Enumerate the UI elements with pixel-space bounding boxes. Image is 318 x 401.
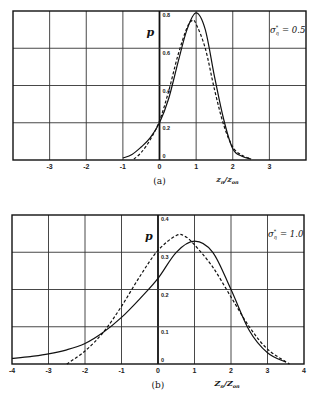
y-tick-label: 0 bbox=[163, 153, 166, 159]
x-tick-label: 1 bbox=[194, 163, 198, 170]
x-tick-label: -3 bbox=[47, 163, 53, 170]
chart-b-curves bbox=[12, 234, 289, 364]
y-axis-label: p bbox=[147, 26, 155, 39]
chart-panel-b: -4-3-2-10123400.10.20.30.4pση* = 1.0Zn/Z… bbox=[0, 200, 318, 401]
x-tick-label: 2 bbox=[229, 367, 233, 374]
x-axis-label: zn/zon bbox=[215, 174, 239, 185]
y-tick-label: 0.6 bbox=[163, 50, 171, 56]
x-axis-label: Zn/Zon bbox=[214, 378, 241, 389]
y-tick-label: 0.2 bbox=[163, 125, 171, 131]
panel-caption: (b) bbox=[152, 380, 165, 390]
x-tick-label: -1 bbox=[120, 163, 126, 170]
x-tick-label: -3 bbox=[45, 367, 51, 374]
series-dashed-curve bbox=[67, 234, 290, 364]
sigma-annotation: ση* = 1.0 bbox=[268, 228, 304, 241]
x-tick-label: -2 bbox=[83, 163, 89, 170]
x-tick-label: -1 bbox=[118, 367, 124, 374]
x-tick-label: -4 bbox=[9, 367, 15, 374]
panel-caption: (a) bbox=[153, 176, 165, 186]
x-tick-label: 3 bbox=[266, 367, 270, 374]
y-tick-label: 0.1 bbox=[161, 329, 169, 335]
x-tick-label: -2 bbox=[82, 367, 88, 374]
chart-panel-a: -3-2-1012300.20.40.60.8pση* = 0.5zn/zon(… bbox=[0, 0, 318, 200]
chart-b-plot: -4-3-2-10123400.10.20.30.4pση* = 1.0Zn/Z… bbox=[0, 200, 318, 401]
chart-a-grid bbox=[13, 11, 306, 160]
series-solid-curve bbox=[12, 241, 286, 362]
y-axis-label: p bbox=[145, 230, 153, 243]
sigma-annotation: ση* = 0.5 bbox=[270, 24, 305, 37]
x-tick-label: 0 bbox=[158, 163, 162, 170]
chart-a-curves bbox=[123, 13, 251, 159]
y-tick-label: 0.4 bbox=[161, 216, 170, 222]
y-tick-label: 0.4 bbox=[163, 88, 172, 94]
y-tick-label: 0.2 bbox=[161, 292, 169, 298]
y-tick-label: 0.3 bbox=[161, 254, 169, 260]
y-tick-label: 0 bbox=[161, 357, 164, 363]
x-tick-label: 3 bbox=[267, 163, 271, 170]
x-tick-label: 0 bbox=[156, 367, 160, 374]
x-tick-label: 1 bbox=[193, 367, 197, 374]
series-dashed-curve bbox=[134, 20, 251, 159]
y-tick-label: 0.8 bbox=[163, 12, 171, 18]
x-tick-label: 4 bbox=[302, 367, 306, 374]
series-solid-curve bbox=[123, 13, 251, 159]
chart-a-plot: -3-2-1012300.20.40.60.8pση* = 0.5zn/zon(… bbox=[0, 0, 318, 200]
x-tick-label: 2 bbox=[231, 163, 235, 170]
